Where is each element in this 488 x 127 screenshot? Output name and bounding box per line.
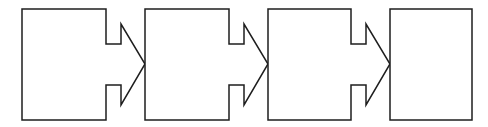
process-flow-diagram xyxy=(0,0,488,127)
process-step-1 xyxy=(22,9,145,120)
process-step-4 xyxy=(390,9,472,120)
step-3-arrow-box-shape xyxy=(268,9,390,120)
process-step-3 xyxy=(268,9,390,120)
step-1-arrow-box-shape xyxy=(22,9,145,120)
step-2-arrow-box-shape xyxy=(145,9,268,120)
step-4-box-shape xyxy=(390,9,472,120)
process-step-2 xyxy=(145,9,268,120)
